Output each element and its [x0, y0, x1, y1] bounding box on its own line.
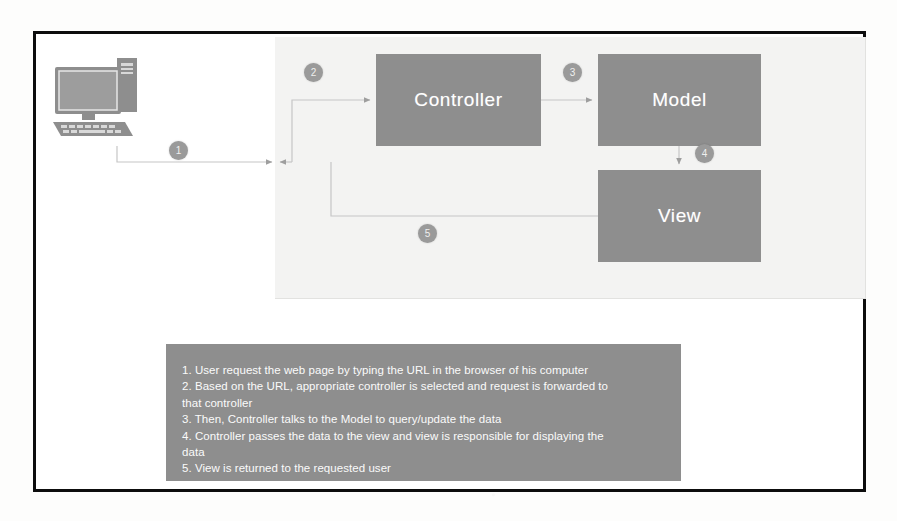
- node-view[interactable]: View: [598, 170, 761, 262]
- node-controller[interactable]: Controller: [376, 54, 541, 146]
- legend-line: 5. View is returned to the requested use…: [182, 460, 667, 476]
- step-badge-1: 1: [169, 141, 188, 160]
- step-badge-2: 2: [304, 63, 323, 82]
- diagram-frame: Controller Model View 1 2 3 4 5 1. User …: [33, 31, 866, 492]
- node-controller-label: Controller: [414, 89, 502, 111]
- legend-line: 2. Based on the URL, appropriate control…: [182, 378, 667, 394]
- legend-line: that controller: [182, 395, 667, 411]
- scanned-page: Controller Model View 1 2 3 4 5 1. User …: [0, 0, 897, 521]
- node-view-label: View: [658, 205, 701, 227]
- legend-line: 1. User request the web page by typing t…: [182, 362, 667, 378]
- legend-line: 4. Controller passes the data to the vie…: [182, 428, 667, 444]
- legend-line: data: [182, 444, 667, 460]
- node-model-label: Model: [652, 89, 707, 111]
- desktop-computer-icon: [49, 54, 157, 146]
- step-badge-3: 3: [563, 63, 582, 82]
- node-model[interactable]: Model: [598, 54, 761, 146]
- step-badge-4: 4: [695, 144, 714, 163]
- step-badge-5: 5: [418, 224, 437, 243]
- legend-line: 3. Then, Controller talks to the Model t…: [182, 411, 667, 427]
- legend-panel: 1. User request the web page by typing t…: [166, 344, 681, 481]
